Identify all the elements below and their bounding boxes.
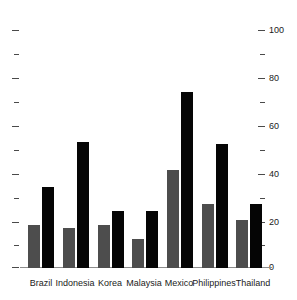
y-tick-right-60	[258, 126, 265, 127]
x-axis-label-thailand: Thailand	[226, 279, 280, 288]
y-tick-left-50	[14, 150, 19, 151]
bar-thailand-series-1	[236, 220, 248, 268]
bar-korea-series-1	[98, 225, 110, 268]
bar-philippines-series-1	[202, 204, 214, 268]
bar-korea-series-2	[112, 211, 124, 268]
bar-malaysia-series-1	[132, 239, 144, 268]
y-tick-left-10	[14, 245, 19, 246]
bar-brazil-series-1	[28, 225, 40, 268]
y-tick-left-80	[12, 78, 19, 79]
y-tick-left-0	[12, 267, 19, 268]
y-tick-left-100	[12, 30, 19, 31]
y-tick-label-100: 100	[269, 26, 284, 35]
bar-brazil-series-2	[42, 187, 54, 268]
y-tick-right-50	[260, 150, 265, 151]
y-tick-left-20	[12, 222, 19, 223]
y-tick-label-80: 80	[269, 74, 279, 83]
bar-philippines-series-2	[216, 144, 228, 268]
y-tick-right-100	[258, 30, 265, 31]
y-tick-label-60: 60	[269, 122, 279, 131]
y-tick-left-60	[12, 126, 19, 127]
bar-indonesia-series-1	[63, 228, 75, 269]
y-tick-left-40	[12, 174, 19, 175]
y-tick-left-90	[14, 54, 19, 55]
bar-malaysia-series-2	[146, 211, 158, 268]
y-tick-right-30	[260, 198, 265, 199]
y-tick-right-90	[260, 54, 265, 55]
y-tick-left-30	[14, 198, 19, 199]
y-tick-right-70	[260, 102, 265, 103]
y-tick-label-20: 20	[269, 218, 279, 227]
y-tick-right-40	[258, 174, 265, 175]
y-tick-left-70	[14, 102, 19, 103]
y-tick-right-80	[258, 78, 265, 79]
bar-mexico-series-1	[167, 170, 179, 268]
y-tick-label-40: 40	[269, 170, 279, 179]
bar-chart: 100 80 60 40 20 0	[0, 0, 297, 300]
bar-thailand-series-2	[250, 204, 262, 268]
bar-indonesia-series-2	[77, 142, 89, 268]
plot-area	[22, 16, 257, 268]
bar-mexico-series-2	[181, 92, 193, 268]
